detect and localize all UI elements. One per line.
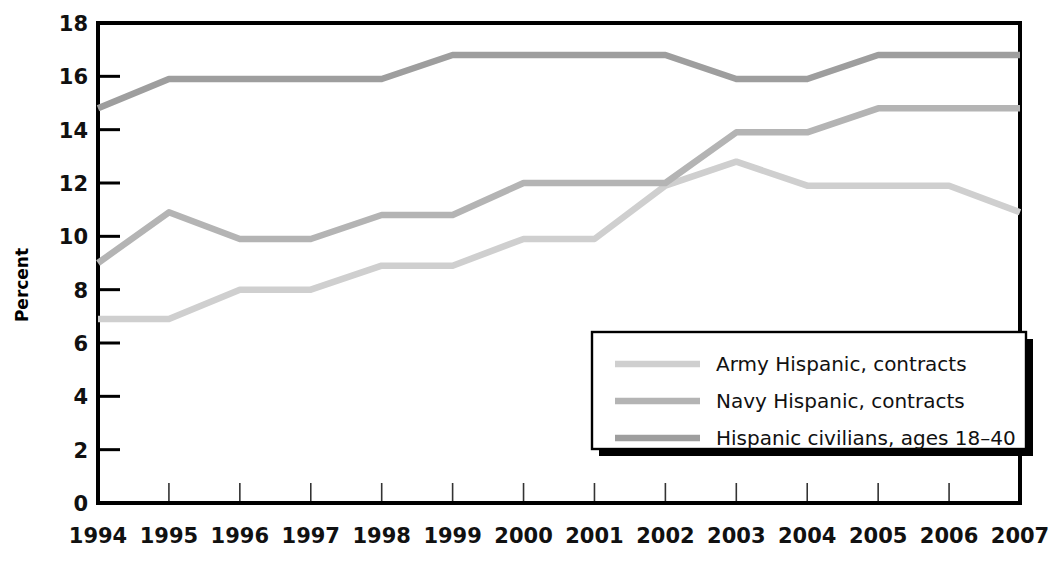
chart-page: Percent 024681012141618 1994199519961997… [0,0,1059,563]
x-tick-label: 2004 [778,524,836,548]
line-chart: Percent 024681012141618 1994199519961997… [0,0,1059,563]
y-tick-label: 16 [59,65,88,89]
y-axis-title: Percent [12,248,32,322]
x-axis-ticks: 1994199519961997199819992000200120022003… [69,483,1049,548]
x-tick-label: 2000 [494,524,552,548]
legend-label: Navy Hispanic, contracts [716,389,965,413]
y-tick-label: 10 [59,225,88,249]
legend-label: Hispanic civilians, ages 18–40 [716,426,1016,450]
x-tick-label: 2003 [707,524,765,548]
legend-label: Army Hispanic, contracts [716,352,967,376]
x-tick-label: 2007 [991,524,1049,548]
x-tick-label: 2006 [920,524,978,548]
x-tick-label: 2005 [849,524,907,548]
y-axis-title-text: Percent [12,248,32,322]
x-tick-label: 2001 [565,524,623,548]
y-tick-label: 8 [73,279,88,303]
x-tick-label: 1996 [211,524,269,548]
x-tick-label: 2002 [636,524,694,548]
data-series-group [98,55,1020,319]
y-tick-label: 14 [59,119,88,143]
x-tick-label: 1994 [69,524,127,548]
x-tick-label: 1995 [140,524,198,548]
series-line [98,55,1020,108]
y-tick-label: 4 [73,385,88,409]
y-tick-label: 6 [73,332,88,356]
y-tick-label: 0 [73,492,88,516]
x-tick-label: 1999 [423,524,481,548]
y-axis-ticks: 024681012141618 [59,12,120,516]
x-tick-label: 1998 [352,524,410,548]
y-tick-label: 2 [73,439,88,463]
legend: Army Hispanic, contractsNavy Hispanic, c… [592,332,1033,456]
legend-items: Army Hispanic, contractsNavy Hispanic, c… [615,352,1016,450]
x-tick-label: 1997 [282,524,340,548]
y-tick-label: 12 [59,172,88,196]
y-tick-label: 18 [59,12,88,36]
